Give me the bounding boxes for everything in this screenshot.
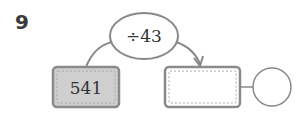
output-box[interactable] (165, 67, 240, 107)
remainder-circle[interactable] (253, 68, 291, 106)
operation-label: ÷43 (126, 26, 162, 46)
operation-ellipse: ÷43 (110, 13, 178, 59)
division-diagram: ÷43 541 (0, 0, 297, 120)
connector-input-to-operation (86, 42, 112, 67)
input-box: 541 (53, 67, 119, 107)
input-value: 541 (70, 78, 102, 98)
